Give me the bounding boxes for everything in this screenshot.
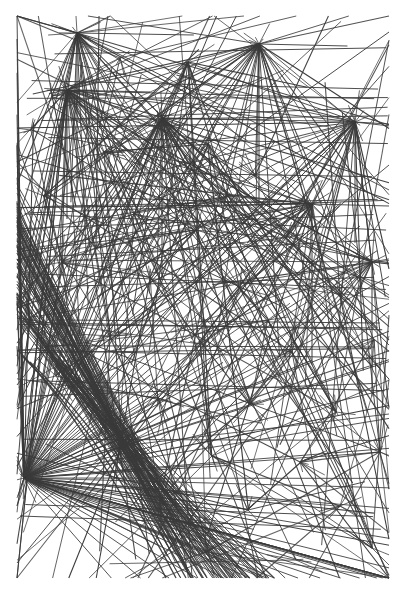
artwork-canvas: Generative Line Network Dense web of str…	[0, 0, 413, 610]
line-network-svg	[0, 0, 413, 610]
art-line	[150, 269, 151, 278]
